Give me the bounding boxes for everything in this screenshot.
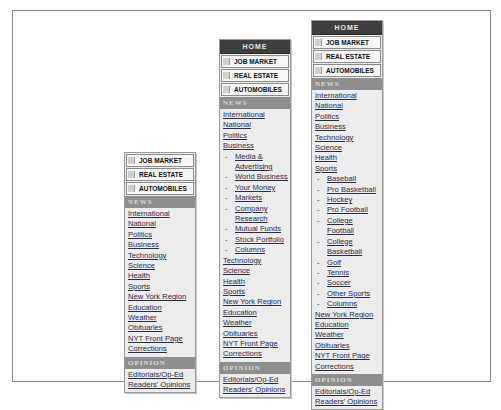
opinion-link[interactable]: Readers' Opinions [128, 380, 195, 390]
news-section-header: NEWS [220, 97, 290, 109]
news-section-link[interactable]: Science [315, 143, 382, 153]
news-link-list: InternationalNationalPoliticsBusinessTec… [125, 208, 195, 356]
news-section-link[interactable]: Health [128, 271, 195, 281]
classified-button[interactable]: JOB MARKET [221, 55, 289, 68]
news-link-list: InternationalNationalPoliticsBusiness - … [220, 109, 290, 361]
classified-button[interactable]: REAL ESTATE [221, 69, 289, 82]
opinion-link-list: Editorials/Op-EdReaders' Opinions [312, 386, 382, 409]
news-subsection-link[interactable]: Columns [327, 299, 381, 309]
news-subsection-item: - Pro Basketball [315, 185, 382, 195]
news-subsection-link[interactable]: Mutual Funds [235, 224, 289, 234]
classified-button[interactable]: AUTOMOBILES [126, 182, 194, 195]
dash-bullet-icon: - [315, 205, 327, 215]
news-subsection-link[interactable]: Media & Advertising [235, 152, 289, 173]
news-section-link[interactable]: NYT Front Page [128, 334, 195, 344]
news-section-link[interactable]: Science [128, 261, 195, 271]
news-section-link[interactable]: International [315, 91, 382, 101]
news-subsection-link[interactable]: Markets [235, 193, 289, 203]
news-subsection-item: - College Football [315, 216, 382, 237]
news-section-link[interactable]: Business [223, 141, 290, 151]
news-section-link[interactable]: National [315, 101, 382, 111]
dash-bullet-icon: - [315, 268, 327, 278]
classified-button[interactable]: AUTOMOBILES [313, 64, 381, 77]
classified-button[interactable]: REAL ESTATE [313, 50, 381, 63]
classified-label: JOB MARKET [234, 58, 277, 65]
news-subsection-link[interactable]: World Business [235, 172, 289, 182]
classified-label: JOB MARKET [139, 157, 182, 164]
news-subsection-link[interactable]: Pro Football [327, 205, 381, 215]
news-section-link[interactable]: NYT Front Page [223, 339, 290, 349]
news-section-link[interactable]: National [128, 219, 195, 229]
news-section-link[interactable]: Business [315, 122, 382, 132]
news-section-link[interactable]: Education [128, 303, 195, 313]
news-section-link[interactable]: Politics [315, 112, 382, 122]
news-section-link[interactable]: New York Region [223, 297, 290, 307]
bullet-square-icon [128, 171, 135, 178]
news-subsection-link[interactable]: Baseball [327, 174, 381, 184]
news-subsection-link[interactable]: Hockey [327, 195, 381, 205]
dash-bullet-icon: - [315, 195, 327, 205]
news-section-link[interactable]: Sports [223, 287, 290, 297]
news-section-link[interactable]: Politics [128, 230, 195, 240]
opinion-link[interactable]: Readers' Opinions [223, 385, 290, 395]
opinion-link[interactable]: Editorials/Op-Ed [315, 387, 382, 397]
news-subsection-item: - Other Sports [315, 289, 382, 299]
news-section-link[interactable]: National [223, 120, 290, 130]
news-section-link[interactable]: Obituaries [315, 341, 382, 351]
news-subsection-link[interactable]: Golf [327, 258, 381, 268]
news-subsection-link[interactable]: Soccer [327, 278, 381, 288]
news-section-link[interactable]: Weather [315, 330, 382, 340]
news-section-link[interactable]: Corrections [315, 362, 382, 372]
dash-bullet-icon: - [223, 235, 235, 245]
bullet-square-icon [315, 39, 322, 46]
news-section-link[interactable]: Health [223, 277, 290, 287]
news-section-link[interactable]: Technology [315, 133, 382, 143]
news-subsection-link[interactable]: Other Sports [327, 289, 381, 299]
news-subsection-link[interactable]: Tennis [327, 268, 381, 278]
classified-button[interactable]: JOB MARKET [313, 36, 381, 49]
news-section-link[interactable]: NYT Front Page [315, 351, 382, 361]
opinion-link[interactable]: Editorials/Op-Ed [128, 370, 195, 380]
bullet-square-icon [223, 72, 230, 79]
classified-button[interactable]: AUTOMOBILES [221, 83, 289, 96]
news-subsection-link[interactable]: Company Research [235, 204, 289, 225]
news-section-link[interactable]: Obituaries [128, 323, 195, 333]
news-subsection-item: - Stock Portfolio [223, 235, 290, 245]
home-button[interactable]: HOME [312, 21, 382, 35]
news-section-link[interactable]: Corrections [223, 349, 290, 359]
news-section-link[interactable]: Technology [223, 256, 290, 266]
news-section-link[interactable]: Weather [128, 313, 195, 323]
news-link-list: InternationalNationalPoliticsBusinessTec… [312, 90, 382, 373]
classified-label: AUTOMOBILES [326, 67, 374, 74]
news-subsection-link[interactable]: College Football [327, 216, 381, 237]
news-subsection-link[interactable]: Pro Basketball [327, 185, 381, 195]
news-section-link[interactable]: Obituaries [223, 329, 290, 339]
news-subsection-item: - Golf [315, 258, 382, 268]
news-subsection-link[interactable]: College Basketball [327, 237, 381, 258]
news-section-link[interactable]: Technology [128, 251, 195, 261]
nav-panel-sports-expanded: HOME JOB MARKET REAL ESTATE AUTOMOBILESN… [311, 20, 383, 410]
news-subsection-link[interactable]: Columns [235, 245, 289, 255]
news-section-link[interactable]: International [223, 110, 290, 120]
news-subsection-link[interactable]: Your Money [235, 183, 289, 193]
news-section-link[interactable]: New York Region [128, 292, 195, 302]
classified-button[interactable]: JOB MARKET [126, 154, 194, 167]
news-section-link[interactable]: Education [315, 320, 382, 330]
news-section-link[interactable]: Politics [223, 131, 290, 141]
news-section-link[interactable]: Education [223, 308, 290, 318]
classified-button[interactable]: REAL ESTATE [126, 168, 194, 181]
news-section-link[interactable]: Sports [315, 164, 382, 174]
classified-label: REAL ESTATE [234, 72, 278, 79]
news-section-link[interactable]: Business [128, 240, 195, 250]
news-section-link[interactable]: International [128, 209, 195, 219]
opinion-link[interactable]: Editorials/Op-Ed [223, 375, 290, 385]
news-section-link[interactable]: Corrections [128, 344, 195, 354]
home-button[interactable]: HOME [220, 40, 290, 54]
news-section-link[interactable]: New York Region [315, 310, 382, 320]
news-subsection-link[interactable]: Stock Portfolio [235, 235, 289, 245]
news-section-link[interactable]: Science [223, 266, 290, 276]
news-section-link[interactable]: Health [315, 153, 382, 163]
opinion-link[interactable]: Readers' Opinions [315, 397, 382, 407]
news-section-link[interactable]: Weather [223, 318, 290, 328]
news-section-link[interactable]: Sports [128, 282, 195, 292]
